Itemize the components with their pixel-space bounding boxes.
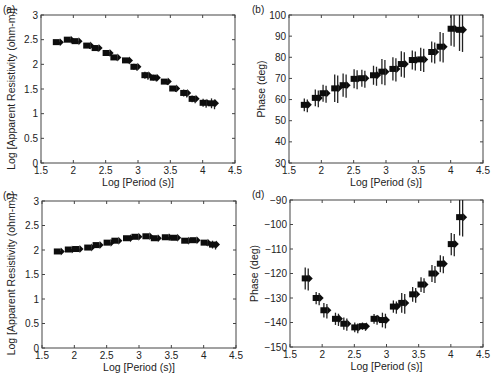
y-tick-label: 0 [33, 343, 39, 354]
x-tick-label: 3.5 [164, 350, 178, 361]
data-point [111, 237, 122, 245]
y-tick-label: 0 [32, 158, 38, 169]
x-tick-label: 2 [72, 350, 78, 361]
figure-canvas: 1.522.533.544.500.511.522.53Log [Period … [0, 0, 496, 380]
x-tick-label: 4 [201, 350, 207, 361]
y-tick-label: 1.5 [25, 269, 39, 280]
y-tick-label: 1 [32, 108, 38, 119]
data-point [170, 234, 181, 242]
data-point [340, 74, 351, 98]
plot-frame [290, 200, 483, 347]
x-tick-label: 4.5 [229, 350, 243, 361]
x-tick-label: 2.5 [100, 350, 114, 361]
data-point [208, 98, 219, 109]
data-point [54, 247, 65, 255]
x-tick-label: 3.5 [412, 349, 426, 360]
panel-a: 1.522.533.544.500.511.522.53Log [Period … [3, 4, 242, 188]
y-tick-label: 1 [33, 294, 39, 305]
y-axis-ticks: 00.511.522.53 [25, 196, 236, 354]
data-point [190, 236, 201, 244]
y-tick-label: 50 [275, 115, 287, 126]
data-point [418, 277, 429, 293]
x-tick-label: 3.5 [411, 165, 425, 176]
data-point [313, 292, 324, 305]
x-axis-ticks: 1.522.533.544.5 [35, 201, 243, 361]
y-tick-label: 40 [275, 136, 287, 147]
data-series [301, 9, 467, 113]
x-tick-label: 2 [71, 165, 77, 176]
panels: 1.522.533.544.500.511.522.53Log [Period … [3, 4, 490, 373]
y-tick-label: −110 [265, 244, 287, 255]
panel-b: 1.522.533.544.530405060708090100Log [Per… [252, 4, 490, 188]
x-tick-label: 3 [135, 165, 141, 176]
y-tick-label: 2.5 [25, 220, 39, 231]
y-axis-label: Phase (deg) [248, 245, 260, 302]
x-tick-label: 2 [319, 349, 325, 360]
panel-label: (d) [252, 189, 264, 200]
y-axis-ticks: −150−140−130−120−110−100−90 [264, 195, 483, 353]
panel-d: 1.522.533.544.5−150−140−130−120−110−100−… [248, 189, 490, 372]
data-point [331, 75, 342, 103]
y-tick-label: 90 [275, 31, 287, 42]
x-tick-label: 2.5 [99, 165, 113, 176]
data-point [417, 48, 428, 72]
y-tick-label: 100 [269, 10, 286, 21]
data-point [389, 57, 400, 81]
y-tick-label: −150 [264, 342, 287, 353]
x-tick-label: 4.5 [476, 349, 490, 360]
data-point [169, 85, 180, 93]
data-point [428, 265, 439, 283]
data-point [320, 303, 331, 319]
data-point [379, 313, 390, 329]
y-tick-label: 2.5 [24, 34, 38, 45]
y-tick-label: −120 [264, 268, 287, 279]
x-axis-label: Log [Period (s)] [350, 176, 422, 188]
y-axis-label: Log [Apparent Resistivity (ohm-m)] [5, 194, 17, 356]
data-point [359, 322, 370, 331]
y-tick-label: 2 [33, 245, 39, 256]
plot-frame [42, 201, 236, 348]
data-point [189, 95, 200, 103]
y-tick-label: 3 [33, 196, 39, 207]
x-tick-label: 3.5 [163, 165, 177, 176]
x-tick-label: 3 [136, 350, 142, 361]
y-tick-label: 30 [275, 158, 287, 169]
data-point [93, 241, 104, 249]
data-point [122, 56, 133, 64]
y-tick-label: 60 [275, 94, 287, 105]
data-point [302, 267, 313, 290]
data-point [209, 241, 220, 250]
x-axis-label: Log [Period (s)] [102, 176, 174, 188]
x-tick-label: 4.5 [228, 165, 242, 176]
data-point [448, 233, 459, 256]
panel-label: (b) [252, 4, 264, 15]
data-point [456, 199, 467, 237]
data-point [437, 32, 448, 63]
panel-label: (c) [3, 190, 15, 201]
data-point [437, 255, 448, 273]
y-tick-label: 1.5 [24, 84, 38, 95]
x-tick-label: 2.5 [347, 349, 361, 360]
data-point [161, 78, 172, 86]
data-point [53, 38, 64, 46]
x-tick-label: 4.5 [476, 165, 490, 176]
data-point [131, 233, 142, 241]
x-tick-label: 3 [383, 165, 389, 176]
data-point [73, 245, 84, 253]
data-point [358, 70, 369, 88]
data-series [53, 36, 219, 110]
y-axis-label: Log [Apparent Resistivity (ohm-m)] [5, 8, 17, 170]
y-tick-label: −140 [264, 317, 287, 328]
y-axis-label: Phase (deg) [255, 60, 267, 117]
x-tick-label: 3 [384, 349, 390, 360]
y-tick-label: −90 [270, 195, 287, 206]
y-axis-ticks: 00.511.522.53 [24, 10, 235, 169]
y-tick-label: 0.5 [24, 133, 38, 144]
data-series [302, 199, 467, 334]
data-point [378, 59, 389, 85]
y-tick-label: 70 [275, 73, 287, 84]
data-point [92, 44, 103, 52]
x-tick-label: 4 [448, 165, 454, 176]
y-tick-label: 80 [275, 52, 287, 63]
y-tick-label: 2 [32, 59, 38, 70]
